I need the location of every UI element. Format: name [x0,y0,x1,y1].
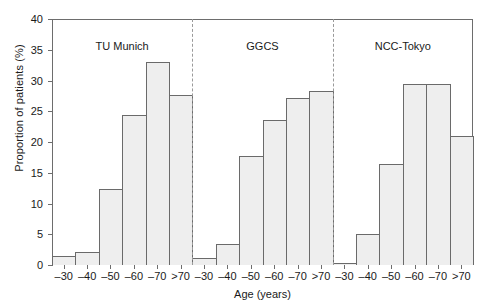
x-axis-tick-mark [368,265,369,269]
x-axis-tick-mark [181,265,182,269]
bar-group [192,19,332,265]
x-axis-tick-mark [64,265,65,269]
bar [146,62,170,265]
bar [239,156,263,265]
x-axis-tick-mark [274,265,275,269]
x-axis-tick-mark [438,265,439,269]
chart-panel: TU Munich–30–40–50–60–70>70 [52,19,192,265]
bar-group [52,19,192,265]
y-axis-tick-label: 20 [3,134,43,150]
chart-panel: GGCS–30–40–50–60–70>70 [192,19,332,265]
bar [426,84,450,265]
bar [75,252,99,265]
bar [216,244,240,265]
y-axis-tick-label: 15 [3,165,43,181]
y-axis-tick-label: 35 [3,42,43,58]
x-axis-tick-mark [204,265,205,269]
x-axis-tick-mark [321,265,322,269]
x-axis-tick-mark [87,265,88,269]
x-axis-tick-label: >70 [444,270,479,282]
bar [263,120,287,265]
x-axis-tick-mark [227,265,228,269]
panel-divider [333,19,334,265]
x-axis-title: Age (years) [52,288,473,300]
bar [99,189,123,265]
bar [309,91,333,265]
figure-canvas: Proportion of patients (%) 0510152025303… [0,0,497,308]
x-axis-tick-mark [134,265,135,269]
bar [169,95,193,265]
bar [52,256,76,265]
bar [356,234,380,265]
x-axis-tick-mark [461,265,462,269]
x-axis-tick-mark [391,265,392,269]
x-axis-tick-mark [251,265,252,269]
y-axis-tick-label: 5 [3,226,43,242]
x-axis-tick-group: –30–40–50–60–70>70 [333,265,473,289]
bar-group [333,19,473,265]
y-axis-tick-label: 25 [3,103,43,119]
bar [286,98,310,265]
x-axis-tick: >70 [450,265,473,289]
panel-divider [192,19,193,265]
bar [379,164,403,265]
y-axis-tick-label: 30 [3,73,43,89]
bar [450,136,474,265]
bar [192,258,216,265]
x-axis-tick-group: –30–40–50–60–70>70 [52,265,192,289]
x-axis-tick-group: –30–40–50–60–70>70 [192,265,332,289]
x-axis-tick-mark [415,265,416,269]
x-axis-tick-mark [344,265,345,269]
bar [403,84,427,265]
y-axis-tick-label: 0 [3,257,43,273]
x-axis-tick-mark [157,265,158,269]
bar [122,115,146,265]
x-axis-tick-mark [298,265,299,269]
x-axis-tick-mark [110,265,111,269]
y-axis-tick-label: 40 [3,11,43,27]
y-axis-tick-label: 10 [3,196,43,212]
chart-panel: NCC-Tokyo–30–40–50–60–70>70 [333,19,473,265]
